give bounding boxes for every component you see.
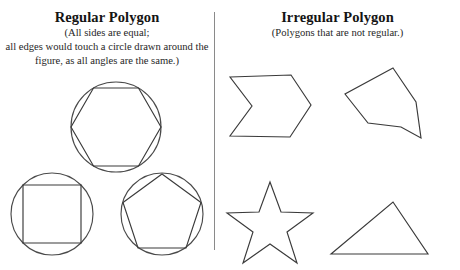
irregular-hexagon [345, 68, 421, 138]
five-pointed-star-shape [225, 180, 315, 266]
worksheet-page: Regular Polygon (All sides are equal; al… [0, 0, 460, 270]
circumscribed-circle-pentagon [121, 173, 203, 255]
regular-subtitle-line-2: all edges would touch a circle drawn aro… [2, 40, 212, 54]
hexagon-in-circle-shape [62, 77, 170, 177]
regular-subtitle-line-1: (All sides are equal; [2, 26, 212, 40]
irregular-hexagon-shape [343, 65, 429, 147]
irregular-panel-subtitle: (Polygons that are not regular.) [215, 26, 460, 40]
chevron-arrow-shape [228, 72, 314, 140]
regular-polygon-panel: Regular Polygon (All sides are equal; al… [0, 0, 214, 67]
regular-pentagon [123, 174, 201, 248]
scalene-triangle [331, 202, 428, 254]
vertical-divider [214, 12, 215, 250]
square-in-circle-shape [9, 169, 95, 259]
chevron-arrow [230, 75, 311, 137]
irregular-polygon-panel: Irregular Polygon (Polygons that are not… [215, 0, 460, 40]
scalene-triangle-shape [328, 198, 438, 264]
square [23, 185, 81, 243]
circumscribed-circle-hexagon [71, 82, 161, 172]
regular-panel-subtitle: (All sides are equal; all edges would to… [0, 26, 214, 67]
five-pointed-star [227, 182, 313, 263]
irregular-subtitle-line-1: (Polygons that are not regular.) [217, 26, 458, 40]
regular-subtitle-line-3: figure, as all angles are the same.) [2, 54, 212, 68]
pentagon-in-circle-shape [118, 169, 206, 259]
regular-hexagon [71, 88, 161, 166]
irregular-panel-title: Irregular Polygon [215, 9, 460, 25]
regular-panel-title: Regular Polygon [0, 9, 214, 25]
